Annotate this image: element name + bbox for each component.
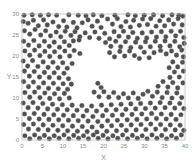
data-point [155, 90, 160, 95]
data-point [58, 55, 63, 60]
data-point [180, 23, 185, 28]
data-point [121, 92, 126, 97]
data-point [173, 34, 178, 39]
data-point [169, 134, 174, 139]
data-point [69, 82, 74, 87]
y-axis-label: Y [7, 73, 12, 80]
data-point [144, 127, 149, 132]
data-point [121, 29, 126, 34]
data-point [158, 122, 163, 127]
data-point [96, 119, 101, 124]
data-point [111, 134, 116, 139]
data-point [91, 13, 96, 18]
data-point [95, 19, 100, 24]
data-point [42, 70, 47, 75]
data-point [132, 53, 137, 58]
data-point [179, 95, 184, 100]
data-point [90, 125, 95, 130]
data-point [65, 87, 70, 92]
data-point [148, 101, 153, 106]
data-point [115, 16, 120, 21]
data-point [133, 107, 138, 112]
data-point [36, 85, 41, 90]
data-point [86, 18, 91, 23]
data-point [78, 51, 83, 56]
data-point [160, 95, 165, 100]
data-point [177, 101, 182, 106]
data-point [87, 35, 92, 40]
x-axis-label: X [101, 154, 106, 161]
data-point [27, 116, 32, 121]
data-point [138, 45, 143, 50]
data-point [156, 84, 161, 89]
data-point [180, 60, 185, 65]
data-point [112, 29, 117, 34]
data-point [158, 48, 163, 53]
data-point [71, 20, 76, 25]
data-point [153, 39, 158, 44]
data-point [111, 90, 116, 95]
data-point [32, 111, 37, 116]
data-point [56, 24, 61, 29]
data-point [139, 122, 144, 127]
data-point [179, 133, 184, 138]
data-point [169, 112, 174, 117]
data-point [80, 124, 85, 129]
data-point [52, 71, 57, 76]
data-point [51, 113, 56, 118]
data-point [23, 134, 28, 139]
data-point [107, 36, 112, 41]
data-point [42, 112, 47, 117]
data-point [141, 92, 146, 97]
data-point [75, 129, 80, 134]
data-point [32, 48, 37, 53]
data-point [60, 102, 65, 107]
data-point [36, 64, 41, 69]
data-point [177, 75, 182, 80]
data-point [138, 101, 143, 106]
data-point [41, 60, 46, 65]
data-point [168, 75, 173, 80]
data-point [162, 23, 167, 28]
data-point [157, 18, 162, 23]
data-point [52, 40, 57, 45]
data-point [99, 103, 104, 108]
data-point [65, 128, 70, 133]
data-point [80, 21, 85, 26]
data-point [178, 123, 183, 128]
data-point [126, 35, 131, 40]
data-point [38, 33, 43, 38]
data-point [181, 14, 186, 19]
data-point [172, 70, 177, 75]
y-tick-label: 0 [16, 137, 20, 143]
data-point [70, 61, 75, 66]
data-point [146, 89, 151, 94]
data-point [60, 60, 65, 65]
data-point [165, 90, 170, 95]
data-point [46, 13, 51, 18]
data-point [45, 107, 50, 112]
data-point [107, 95, 112, 100]
data-point [168, 44, 173, 49]
data-point [118, 49, 123, 54]
data-point [25, 64, 30, 69]
data-point [26, 43, 31, 48]
data-point [36, 23, 41, 28]
data-point [163, 127, 168, 132]
data-point [163, 105, 168, 110]
data-point [60, 123, 65, 128]
data-point [54, 30, 59, 35]
data-point [91, 114, 96, 119]
data-point [154, 35, 159, 40]
data-point [181, 81, 186, 86]
data-point [179, 48, 184, 53]
x-axis-ticks: 0510152025303540 [20, 143, 189, 149]
data-point [61, 18, 66, 23]
data-point [175, 65, 180, 70]
data-point [159, 29, 164, 34]
data-point [27, 74, 32, 79]
data-point [170, 96, 175, 101]
data-point [140, 31, 145, 36]
data-point [99, 25, 104, 30]
data-point [120, 113, 125, 118]
